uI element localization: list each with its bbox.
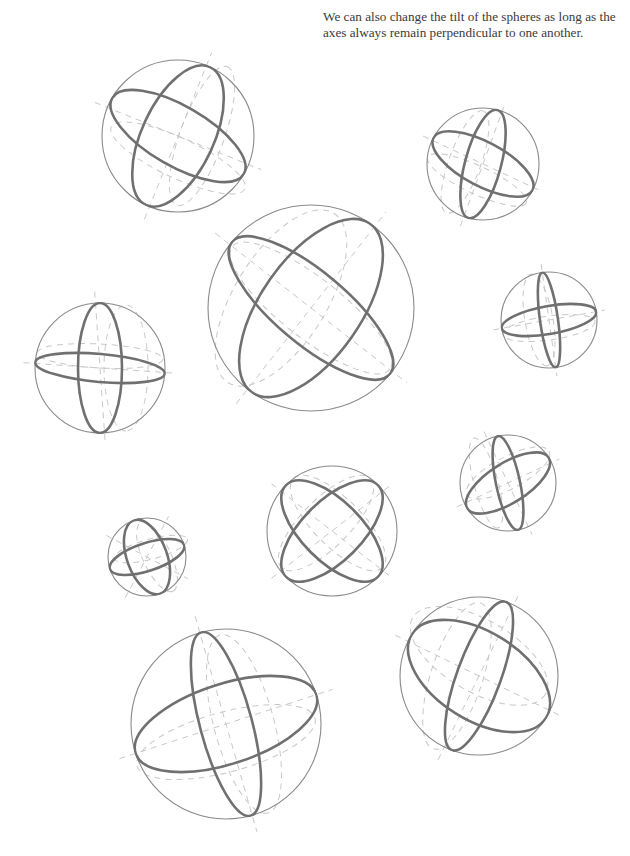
sphere-3	[189, 189, 414, 421]
construction-ellipse-2	[189, 189, 373, 407]
sphere-5	[23, 291, 176, 444]
sphere-4	[493, 264, 605, 376]
axis-line-2	[438, 592, 520, 760]
construction-ellipse-2	[191, 627, 297, 821]
great-circle-2	[265, 464, 399, 598]
sphere-1	[95, 52, 261, 220]
sphere-2	[422, 102, 543, 226]
spheres-illustration	[0, 0, 630, 856]
construction-ellipse-1	[129, 689, 323, 795]
construction-ellipse-1	[36, 341, 163, 372]
sphere-6	[457, 432, 560, 535]
sphere-9	[119, 616, 332, 832]
great-circle-1	[265, 464, 399, 598]
sphere-7	[264, 461, 399, 598]
construction-ellipse-2	[462, 435, 509, 531]
construction-ellipse-1	[103, 109, 254, 208]
sphere-10	[389, 587, 570, 760]
axis-line-2	[195, 616, 257, 832]
great-circle-1	[34, 348, 166, 387]
sphere-8	[106, 514, 191, 601]
axis-line-2	[125, 516, 168, 597]
construction-ellipse-2	[104, 305, 148, 431]
sphere-outline	[35, 303, 165, 433]
